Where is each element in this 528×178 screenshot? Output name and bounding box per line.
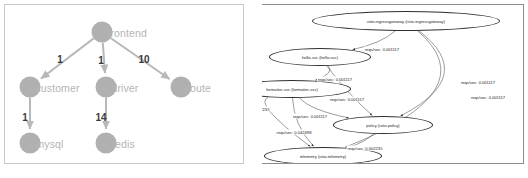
svc-edge-label-formatter-policy-5: reqs/sec: 0.001117	[292, 114, 328, 119]
dep-node-route[interactable]: route	[171, 77, 192, 98]
dep-node-customer[interactable]: customer	[20, 77, 41, 98]
dep-edge-frontend-customer	[41, 38, 94, 78]
service-dependency-panel[interactable]: frontendcustomerdriverroutemysqlredis 11…	[4, 4, 244, 164]
svc-node-label: istio-ingressgateway (istio-ingressgatew…	[367, 19, 445, 24]
svc-node-shape: policy (istio-policy)	[333, 116, 433, 134]
dep-node-mysql[interactable]: mysql	[20, 133, 41, 154]
svc-node-hello[interactable]: hello-svc (hello-svc)	[269, 48, 371, 66]
svc-edge-formatter-telemetry-7	[265, 97, 310, 146]
svc-edge-label-policy-telemetry-8: reqs/sec: 0.002235	[347, 146, 384, 151]
svc-edge-label-hello-formatter-3: reqs/sec: 0.001117	[317, 77, 353, 82]
dep-node-label: driver	[112, 81, 139, 93]
svc-edge-label-ingressgateway-policy-1: reqs/sec: 0.001117	[460, 80, 496, 85]
dep-node-label: mysql	[36, 137, 64, 149]
dep-edge-weight-customer-mysql: 1	[22, 112, 28, 123]
svc-edge-label-formatter-telemetry-7: reqs/sec: 0.002235	[262, 107, 270, 112]
svc-node-policy[interactable]: policy (istio-policy)	[333, 116, 433, 134]
svc-node-shape: istio-ingressgateway (istio-ingressgatew…	[312, 11, 500, 31]
dep-node-label: redis	[112, 137, 135, 149]
dep-node-label: route	[187, 81, 211, 93]
svc-edge-label-ingressgateway-hello-0: reqs/sec: 0.001117	[364, 47, 400, 52]
svc-node-label: hello-svc (hello-svc)	[302, 55, 338, 60]
svc-node-label: formatter-svc (formatter-svc)	[266, 87, 318, 92]
svc-node-shape: hello-svc (hello-svc)	[269, 48, 371, 66]
dep-node-label: frontend	[108, 26, 147, 38]
dep-node-frontend[interactable]: frontend	[92, 22, 113, 43]
dep-edge-weight-frontend-route: 10	[138, 54, 149, 65]
svc-edge-ingressgateway-policy-1	[401, 31, 445, 116]
svc-node-formatter[interactable]: formatter-svc (formatter-svc)	[262, 80, 351, 98]
dep-node-label: customer	[36, 81, 80, 93]
dep-edge-weight-frontend-driver: 1	[98, 55, 104, 66]
svc-edge-label-hello-policy-4: reqs/sec: 0.001117	[329, 97, 365, 102]
screenshot-root: frontendcustomerdriverroutemysqlredis 11…	[0, 0, 528, 178]
svc-node-shape: formatter-svc (formatter-svc)	[262, 80, 351, 98]
svc-edge-label-formatter-telemetry-6: reqs/sec: 0.042498	[276, 130, 313, 135]
svc-node-label: policy (istio-policy)	[366, 123, 399, 128]
svc-edge-formatter-telemetry-6	[292, 98, 313, 146]
svc-node-label: telemetry (istio-telemetry)	[300, 154, 346, 159]
svc-edge-label-ingressgateway-telemetry-2: reqs/sec: 0.001117	[470, 95, 506, 100]
dep-node-redis[interactable]: redis	[96, 133, 117, 154]
dep-edge-weight-frontend-customer: 1	[57, 54, 63, 65]
dep-node-driver[interactable]: driver	[96, 77, 117, 98]
dep-edge-weight-driver-redis: 14	[95, 112, 106, 123]
istio-service-graph-panel[interactable]: istio-ingressgateway (istio-ingressgatew…	[262, 4, 524, 164]
svc-node-ingressgateway[interactable]: istio-ingressgateway (istio-ingressgatew…	[312, 11, 500, 31]
